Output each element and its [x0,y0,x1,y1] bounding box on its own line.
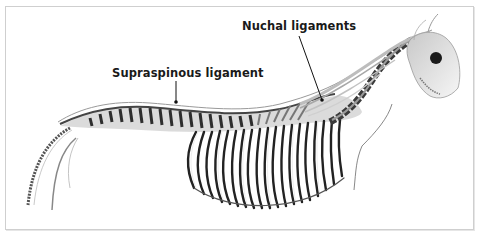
rib-cage [188,120,344,208]
skull [407,14,460,98]
tail-vertebrae [28,128,78,210]
label-nuchal-ligaments: Nuchal ligaments [242,19,356,33]
body-outline [354,104,392,190]
label-supraspinous-ligament: Supraspinous ligament [112,66,264,80]
horse-skeleton-illustration [0,0,480,234]
